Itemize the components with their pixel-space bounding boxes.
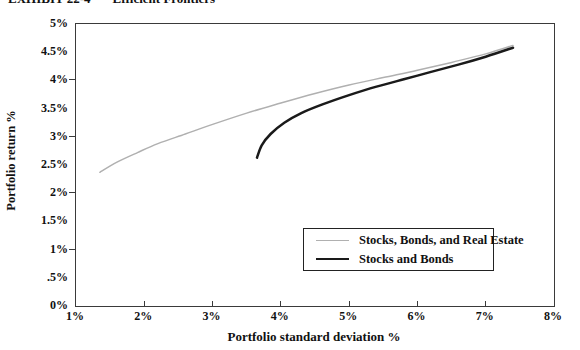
x-tick-mark [280,301,281,306]
y-tick-label: 1.5% [26,213,68,227]
black-line-sample [316,258,349,260]
y-axis-title: Portfolio return % [4,86,19,236]
y-tick-label: .5% [26,270,68,284]
x-tick-label: 7% [463,309,507,324]
x-tick-mark [212,301,213,306]
y-tick-mark [69,136,75,137]
x-tick-label: 3% [190,309,234,324]
efficient-frontier-chart: EXHIBIT 22-4Efficient Frontiers Portfoli… [0,0,580,350]
x-axis-title: Portfolio standard deviation % [75,329,553,345]
y-tick-label: 3.5% [26,101,68,115]
exhibit-title: EXHIBIT 22-4Efficient Frontiers [8,0,215,7]
x-tick-mark [144,301,145,306]
x-tick-mark [349,301,350,306]
x-tick-label: 4% [258,309,302,324]
y-tick-label: 3% [26,129,68,143]
legend-label: Stocks and Bonds [359,252,454,267]
legend-item-stocks-bonds-real-estate: Stocks, Bonds, and Real Estate [304,231,493,250]
x-tick-mark [417,301,418,306]
y-tick-label: 4.5% [26,44,68,58]
y-tick-label: 2% [26,185,68,199]
y-tick-mark [69,249,75,250]
legend-item-stocks-bonds: Stocks and Bonds [304,250,493,269]
exhibit-number: EXHIBIT 22-4 [8,0,90,6]
y-tick-label: 0% [26,298,68,312]
legend: Stocks, Bonds, and Real Estate Stocks an… [303,228,494,271]
legend-label: Stocks, Bonds, and Real Estate [359,233,524,248]
y-tick-mark [69,192,75,193]
x-tick-label: 5% [326,309,370,324]
x-tick-label: 6% [394,309,438,324]
x-tick-label: 8% [531,309,575,324]
y-tick-label: 5% [26,16,68,30]
exhibit-name: Efficient Frontiers [112,0,215,6]
y-tick-mark [69,79,75,80]
y-tick-label: 1% [26,242,68,256]
y-tick-label: 4% [26,72,68,86]
x-tick-label: 2% [121,309,165,324]
series-curve-1 [257,48,513,158]
series-curve-0 [100,45,513,172]
gray-line-sample [316,240,349,241]
y-tick-label: 2.5% [26,157,68,171]
x-tick-mark [485,301,486,306]
